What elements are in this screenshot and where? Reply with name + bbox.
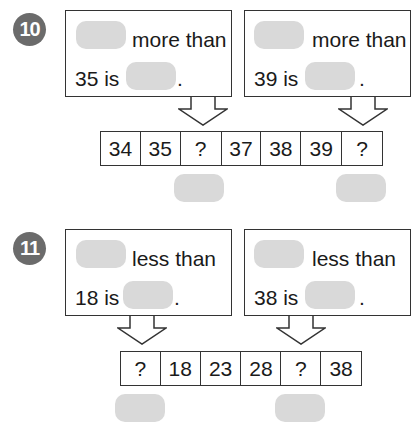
sequence-cell-unknown: ? bbox=[342, 132, 382, 165]
problem-number-badge: 11 bbox=[13, 232, 46, 265]
answer-blank[interactable] bbox=[305, 281, 355, 309]
period: . bbox=[359, 67, 365, 91]
sequence-cell-unknown: ? bbox=[181, 132, 222, 165]
prompt-prefix: 35 is bbox=[75, 67, 119, 91]
left-prompt-box: less than 18 is . bbox=[65, 229, 232, 316]
sequence-cell-unknown: ? bbox=[281, 352, 321, 385]
answer-blank[interactable] bbox=[336, 174, 386, 202]
answer-blank[interactable] bbox=[174, 174, 224, 202]
prompt-prefix: 18 is bbox=[75, 286, 119, 310]
problem-number-badge: 10 bbox=[13, 13, 46, 46]
number-sequence: 34 35 ? 37 38 39 ? bbox=[100, 131, 383, 166]
answer-blank[interactable] bbox=[275, 394, 325, 422]
prompt-phrase: less than bbox=[312, 247, 396, 271]
period: . bbox=[174, 286, 180, 310]
answer-blank[interactable] bbox=[126, 62, 176, 90]
prompt-prefix: 38 is bbox=[254, 286, 298, 310]
sequence-cell: 18 bbox=[161, 352, 201, 385]
sequence-cell: 39 bbox=[301, 132, 342, 165]
sequence-cell: 38 bbox=[261, 132, 301, 165]
down-arrow-icon bbox=[178, 96, 228, 126]
sequence-cell: 23 bbox=[201, 352, 242, 385]
down-arrow-icon bbox=[338, 96, 388, 126]
sequence-cell: 38 bbox=[321, 352, 361, 385]
number-sequence: ? 18 23 28 ? 38 bbox=[120, 351, 362, 386]
sequence-cell: 34 bbox=[101, 132, 141, 165]
answer-blank[interactable] bbox=[115, 394, 165, 422]
sequence-cell: 35 bbox=[141, 132, 181, 165]
answer-blank[interactable] bbox=[76, 240, 126, 268]
prompt-phrase: more than bbox=[312, 28, 407, 52]
left-prompt-box: more than 35 is . bbox=[65, 10, 232, 97]
answer-blank[interactable] bbox=[123, 281, 173, 309]
period: . bbox=[177, 67, 183, 91]
answer-blank[interactable] bbox=[254, 21, 304, 49]
answer-blank[interactable] bbox=[305, 62, 355, 90]
right-prompt-box: less than 38 is . bbox=[244, 229, 411, 316]
right-prompt-box: more than 39 is . bbox=[244, 10, 411, 97]
sequence-cell-unknown: ? bbox=[121, 352, 161, 385]
sequence-cell: 37 bbox=[222, 132, 262, 165]
answer-blank[interactable] bbox=[76, 21, 126, 49]
answer-blank[interactable] bbox=[254, 240, 304, 268]
period: . bbox=[359, 286, 365, 310]
prompt-phrase: less than bbox=[132, 247, 216, 271]
prompt-prefix: 39 is bbox=[254, 67, 298, 91]
down-arrow-icon bbox=[276, 315, 326, 345]
down-arrow-icon bbox=[117, 315, 167, 345]
sequence-cell: 28 bbox=[241, 352, 281, 385]
prompt-phrase: more than bbox=[132, 28, 227, 52]
